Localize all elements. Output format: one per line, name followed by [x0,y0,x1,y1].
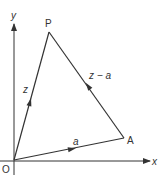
arrow-z-icon [27,97,34,106]
vector-a-label: a [73,136,79,147]
point-a-label: A [127,135,134,146]
x-axis-label: x [151,156,158,167]
origin-label: O [2,164,10,175]
point-p-label: P [45,18,52,29]
vector-z-label: z [22,84,28,95]
vector-z-line [14,32,49,160]
y-axis-label: y [10,10,17,21]
vector-diagram: y x O P A z a z − a [0,0,159,176]
vector-z-minus-a-label: z − a [88,70,111,81]
